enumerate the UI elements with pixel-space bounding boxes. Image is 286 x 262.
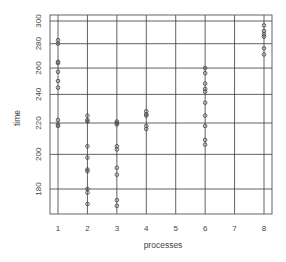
x-axis-ticks: 12345678 [56, 224, 267, 233]
x-axis-label: processes [144, 240, 183, 250]
grid-lines [50, 15, 272, 214]
y-axis-ticks: 180200220240260280300 [34, 14, 43, 196]
y-tick-label: 220 [34, 116, 43, 130]
x-tick-label: 8 [262, 224, 267, 233]
y-tick-label: 280 [34, 36, 43, 50]
x-tick-label: 3 [115, 224, 120, 233]
scatter-chart: 12345678 180200220240260280300 processes… [0, 0, 286, 262]
x-tick-label: 5 [173, 224, 178, 233]
y-axis-label: time [12, 110, 22, 126]
x-tick-label: 1 [56, 224, 61, 233]
x-tick-label: 4 [144, 224, 149, 233]
y-tick-label: 240 [34, 87, 43, 101]
y-tick-label: 180 [34, 182, 43, 196]
y-tick-label: 260 [34, 61, 43, 75]
x-tick-label: 7 [232, 224, 237, 233]
plot-frame [50, 15, 272, 214]
y-tick-label: 300 [34, 14, 43, 28]
x-tick-label: 2 [85, 224, 90, 233]
y-tick-label: 200 [34, 147, 43, 161]
x-tick-label: 6 [203, 224, 208, 233]
